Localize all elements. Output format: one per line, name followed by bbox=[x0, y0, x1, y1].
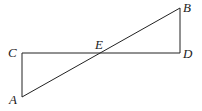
label-point-d: D bbox=[182, 46, 193, 61]
label-point-c: C bbox=[8, 45, 17, 60]
geometry-diagram: B C E D A bbox=[0, 0, 202, 111]
label-point-a: A bbox=[8, 92, 17, 107]
label-point-e: E bbox=[94, 37, 103, 52]
label-point-b: B bbox=[183, 0, 191, 15]
